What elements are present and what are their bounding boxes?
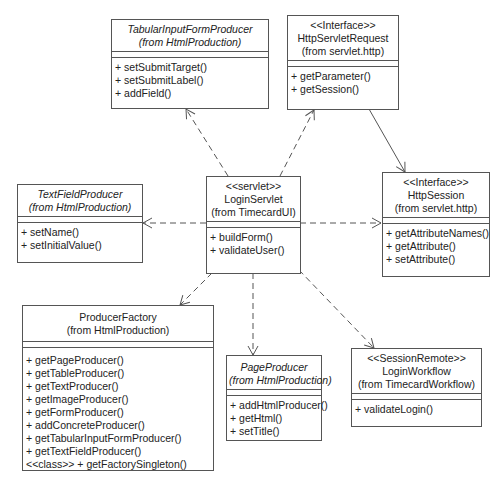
dep-servlet-workflow bbox=[299, 270, 374, 348]
operation: + setAttribute() bbox=[386, 253, 486, 266]
class-package: (from HtmlProduction) bbox=[25, 324, 211, 337]
operation: + getTextProducer() bbox=[26, 380, 210, 393]
operation: + getAttribute() bbox=[386, 240, 486, 253]
class-stereotype: <<SessionRemote>> bbox=[354, 352, 479, 365]
operation: + validateLogin() bbox=[355, 403, 478, 416]
class-header: ProducerFactory (from HtmlProduction) bbox=[23, 306, 213, 342]
class-header: <<Interface>> HttpServletRequest (from s… bbox=[288, 16, 398, 61]
class-header: PageProducer (from HtmlProduction) bbox=[227, 356, 321, 390]
class-stereotype: <<Interface>> bbox=[385, 176, 487, 189]
class-header: <<Interface>> HttpSession (from servlet.… bbox=[383, 173, 489, 218]
class-login-workflow[interactable]: <<SessionRemote>> LoginWorkflow (from Ti… bbox=[351, 348, 482, 427]
assoc-request-session bbox=[369, 109, 405, 172]
operation: + setName() bbox=[21, 226, 139, 239]
class-name: ProducerFactory bbox=[25, 311, 211, 324]
class-package: (from HtmlProduction) bbox=[20, 201, 140, 214]
operations-compartment: + addHtmlProducer() + getHtml() + setTit… bbox=[227, 396, 321, 440]
class-header: <<SessionRemote>> LoginWorkflow (from Ti… bbox=[352, 349, 481, 394]
class-package: (from HtmlProduction) bbox=[114, 36, 266, 49]
operation: + getImageProducer() bbox=[26, 393, 210, 406]
class-page-producer[interactable]: PageProducer (from HtmlProduction) + add… bbox=[226, 355, 322, 441]
dep-servlet-factory bbox=[180, 273, 212, 305]
operations-compartment: + setName() + setInitialValue() bbox=[18, 223, 142, 254]
operation: <<class>> + getFactorySingleton() bbox=[26, 458, 210, 471]
class-tabular-input-form-producer[interactable]: TabularInputFormProducer (from HtmlProdu… bbox=[111, 19, 269, 109]
class-http-servlet-request[interactable]: <<Interface>> HttpServletRequest (from s… bbox=[287, 15, 399, 110]
operation: + getFormProducer() bbox=[26, 406, 210, 419]
operations-compartment: + getParameter() + getSession() bbox=[288, 67, 398, 98]
class-producer-factory[interactable]: ProducerFactory (from HtmlProduction) + … bbox=[22, 305, 214, 471]
class-name: PageProducer bbox=[229, 361, 319, 374]
class-header: <<servlet>> LoginServlet (from TimecardU… bbox=[207, 177, 300, 222]
operation: + setInitialValue() bbox=[21, 239, 139, 252]
class-name: LoginServlet bbox=[209, 193, 298, 206]
class-package: (from HtmlProduction) bbox=[229, 374, 319, 387]
operation: + buildForm() bbox=[210, 231, 297, 244]
class-name: LoginWorkflow bbox=[354, 365, 479, 378]
class-name: TextFieldProducer bbox=[20, 188, 140, 201]
class-http-session[interactable]: <<Interface>> HttpSession (from servlet.… bbox=[382, 172, 490, 277]
dep-servlet-request bbox=[280, 110, 314, 176]
operation: + addConcreteProducer() bbox=[26, 419, 210, 432]
operation: + setSubmitTarget() bbox=[115, 61, 265, 74]
class-package: (from TimecardUI) bbox=[209, 206, 298, 219]
class-header: TabularInputFormProducer (from HtmlProdu… bbox=[112, 20, 268, 52]
operation: + getParameter() bbox=[291, 70, 395, 83]
class-package: (from servlet.http) bbox=[290, 45, 396, 58]
operations-compartment: + setSubmitTarget() + setSubmitLabel() +… bbox=[112, 58, 268, 102]
operation: + getAttributeNames() bbox=[386, 227, 486, 240]
operation: + getHtml() bbox=[230, 412, 318, 425]
class-header: TextFieldProducer (from HtmlProduction) bbox=[18, 185, 142, 217]
class-package: (from servlet.http) bbox=[385, 202, 487, 215]
operation: + validateUser() bbox=[210, 244, 297, 257]
operation: + getTableProducer() bbox=[26, 367, 210, 380]
class-login-servlet[interactable]: <<servlet>> LoginServlet (from TimecardU… bbox=[206, 176, 301, 274]
operations-compartment: + buildForm() + validateUser() bbox=[207, 228, 300, 259]
operations-compartment: + getAttributeNames() + getAttribute() +… bbox=[383, 224, 489, 268]
class-name: TabularInputFormProducer bbox=[114, 23, 266, 36]
dep-servlet-tabular bbox=[186, 109, 228, 176]
operation: + getSession() bbox=[291, 83, 395, 96]
operation: + setSubmitLabel() bbox=[115, 74, 265, 87]
class-name: HttpSession bbox=[385, 189, 487, 202]
class-name: HttpServletRequest bbox=[290, 32, 396, 45]
operation: + addField() bbox=[115, 87, 265, 100]
class-package: (from TimecardWorkflow) bbox=[354, 378, 479, 391]
operation: + getTextFieldProducer() bbox=[26, 445, 210, 458]
class-stereotype: <<servlet>> bbox=[209, 180, 298, 193]
operation: + addHtmlProducer() bbox=[230, 399, 318, 412]
operation: + setTitle() bbox=[230, 425, 318, 438]
class-stereotype: <<Interface>> bbox=[290, 19, 396, 32]
class-text-field-producer[interactable]: TextFieldProducer (from HtmlProduction) … bbox=[17, 184, 143, 263]
operation: + getPageProducer() bbox=[26, 354, 210, 367]
operation: + getTabularInputFormProducer() bbox=[26, 432, 210, 445]
operations-compartment: + validateLogin() bbox=[352, 400, 481, 418]
operations-compartment: + getPageProducer() + getTableProducer()… bbox=[23, 348, 213, 473]
